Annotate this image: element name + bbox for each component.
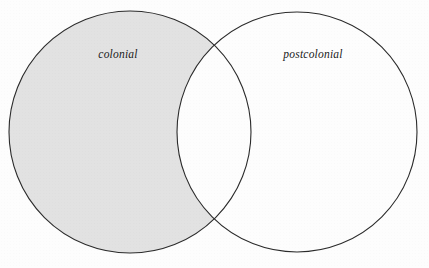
venn-diagram-canvas xyxy=(0,0,429,268)
venn-diagram-figure: colonial postcolonial xyxy=(0,0,429,268)
region-colonial-only-shading xyxy=(0,0,429,268)
label-colonial: colonial xyxy=(98,48,137,60)
label-postcolonial: postcolonial xyxy=(283,48,342,60)
